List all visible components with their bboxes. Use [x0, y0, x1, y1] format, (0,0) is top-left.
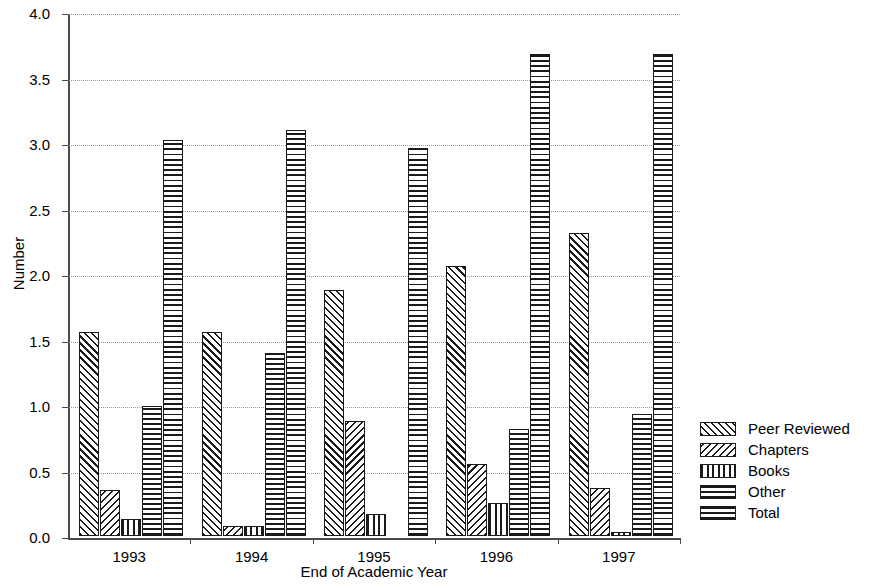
bar-1993-total — [163, 140, 183, 536]
bar-1996-chapters — [467, 464, 487, 536]
legend-swatch-icon-chapters — [700, 443, 736, 457]
plot-area: 0.00.51.01.52.02.53.03.54.0 199319941995… — [68, 14, 680, 538]
bar-1997-books — [611, 532, 631, 536]
bar-1995-total — [408, 148, 428, 536]
legend-item-books: Books — [700, 460, 870, 481]
bar-1995-books — [366, 514, 386, 536]
bar-1996-total — [530, 54, 550, 536]
y-axis-tick-label: 0.5 — [4, 464, 50, 481]
y-axis-tick — [62, 342, 69, 343]
x-axis-line — [68, 538, 681, 540]
legend-label: Chapters — [748, 441, 809, 458]
gridline — [68, 14, 680, 16]
bar-1993-books — [121, 519, 141, 536]
bar-chart-figure: Number 0.00.51.01.52.02.53.03.54.0 19931… — [0, 0, 873, 587]
x-axis-tick — [680, 538, 681, 544]
bar-1993-chapters — [100, 490, 120, 536]
bar-1994-peer-reviewed — [202, 332, 222, 536]
y-axis-tick-label: 1.0 — [4, 398, 50, 415]
y-axis-title: Number — [10, 224, 27, 304]
gridline — [68, 145, 680, 147]
bar-1997-total — [653, 54, 673, 536]
gridline — [68, 211, 680, 213]
legend-label: Books — [748, 462, 790, 479]
y-axis-tick — [62, 80, 69, 81]
y-axis-tick-label: 0.0 — [4, 529, 50, 546]
y-axis-tick — [62, 407, 69, 408]
bar-1995-peer-reviewed — [324, 290, 344, 536]
y-axis-tick — [62, 145, 69, 146]
x-axis-title: End of Academic Year — [68, 563, 680, 580]
bar-1996-other — [509, 429, 529, 536]
bar-1993-peer-reviewed — [79, 332, 99, 536]
legend-label: Peer Reviewed — [748, 420, 850, 437]
y-axis-tick-label: 3.5 — [4, 71, 50, 88]
bar-1996-books — [488, 503, 508, 536]
bar-1996-peer-reviewed — [446, 266, 466, 536]
bar-1995-chapters — [345, 421, 365, 536]
x-axis-tick — [190, 538, 191, 544]
y-axis-tick — [62, 14, 69, 15]
bar-1994-other — [265, 353, 285, 536]
legend-label: Other — [748, 483, 786, 500]
x-axis-tick — [435, 538, 436, 544]
legend-item-chapters: Chapters — [700, 439, 870, 460]
x-axis-tick — [558, 538, 559, 544]
legend-label: Total — [748, 504, 780, 521]
legend-swatch-icon-total — [700, 506, 736, 520]
legend-item-other: Other — [700, 481, 870, 502]
bar-1997-peer-reviewed — [569, 233, 589, 536]
y-axis-tick — [62, 538, 69, 539]
y-axis-tick — [62, 473, 69, 474]
y-axis-tick-label: 2.0 — [4, 267, 50, 284]
y-axis-tick — [62, 276, 69, 277]
bar-1997-chapters — [590, 488, 610, 536]
bar-1994-total — [286, 130, 306, 536]
x-axis-tick — [313, 538, 314, 544]
y-axis-tick-label: 4.0 — [4, 5, 50, 22]
bar-1994-chapters — [223, 526, 243, 536]
y-axis-tick-label: 1.5 — [4, 333, 50, 350]
legend-swatch-icon-peer-reviewed — [700, 422, 736, 436]
bar-1993-other — [142, 406, 162, 536]
gridline — [68, 80, 680, 82]
chart-legend: Peer ReviewedChaptersBooksOtherTotal — [700, 418, 870, 523]
y-axis-tick — [62, 211, 69, 212]
bar-1997-other — [632, 414, 652, 536]
bar-1994-books — [244, 526, 264, 536]
y-axis-tick-label: 3.0 — [4, 136, 50, 153]
y-axis-tick-label: 2.5 — [4, 202, 50, 219]
legend-swatch-icon-other — [700, 485, 736, 499]
legend-item-total: Total — [700, 502, 870, 523]
legend-item-peer-reviewed: Peer Reviewed — [700, 418, 870, 439]
legend-swatch-icon-books — [700, 464, 736, 478]
